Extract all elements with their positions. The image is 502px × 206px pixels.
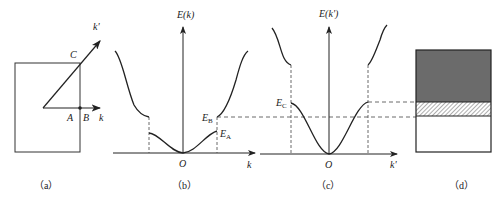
empty-region <box>416 116 491 152</box>
upper-band-left <box>115 51 149 117</box>
label-e-b: EB <box>201 112 213 125</box>
label-k-prime: k' <box>93 21 100 32</box>
filled-band <box>416 50 491 102</box>
upper-band-right-c <box>368 25 387 65</box>
label-origin-c: O <box>325 159 332 170</box>
caption-c: （c） <box>316 180 340 191</box>
caption-d: （d） <box>449 180 474 191</box>
panel-a: k' C A B k （a） <box>15 21 104 191</box>
panel-c: E(k') O k' EC （c） <box>260 8 397 191</box>
label-e-k-prime: E(k') <box>318 8 339 20</box>
band-structure-diagram: k' C A B k （a） E(k) O k EB EA （b） E(k') … <box>0 0 502 206</box>
overlap-band <box>416 102 491 116</box>
caption-a: （a） <box>34 180 58 191</box>
caption-b: （b） <box>172 180 197 191</box>
label-e-k: E(k) <box>176 9 195 21</box>
label-origin-b: O <box>179 158 186 169</box>
point-a <box>78 106 82 110</box>
upper-band-right <box>217 51 248 117</box>
label-b: B <box>83 112 89 123</box>
label-a: A <box>66 112 74 123</box>
panel-d: （d） <box>416 50 491 191</box>
panel-b: E(k) O k EB EA （b） <box>113 9 255 191</box>
label-k-prime-c: k' <box>390 159 397 170</box>
label-k: k <box>99 112 104 123</box>
upper-band-left-c <box>272 28 291 65</box>
label-e-c: EC <box>275 97 287 110</box>
label-k-b: k <box>247 159 252 170</box>
label-e-a: EA <box>219 128 231 141</box>
label-c: C <box>70 49 77 60</box>
